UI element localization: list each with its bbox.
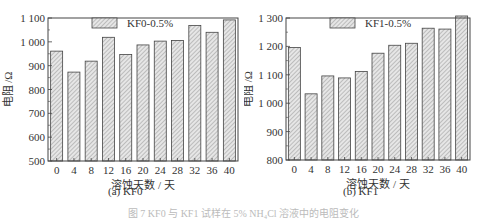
legend-label: KF1-0.5% — [365, 17, 411, 29]
bar — [339, 78, 351, 160]
x-tick-label: 16 — [356, 163, 368, 175]
bar — [137, 45, 149, 161]
bar — [120, 54, 132, 161]
bar — [206, 32, 218, 161]
x-tick-label: 4 — [71, 164, 77, 176]
bar — [456, 16, 468, 160]
x-tick-label: 20 — [373, 163, 385, 175]
subcaption-a: (a) KF0 — [108, 185, 143, 197]
y-tick-label: 1 300 — [258, 12, 283, 24]
y-tick-label: 1 200 — [258, 40, 283, 52]
y-tick-label: 700 — [29, 107, 46, 119]
x-tick-label: 36 — [439, 163, 451, 175]
y-tick-label: 900 — [267, 126, 284, 138]
x-tick-label: 20 — [138, 164, 150, 176]
legend-swatch — [330, 18, 355, 28]
y-tick-label: 500 — [29, 155, 46, 167]
bar — [102, 37, 114, 161]
legend-label: KF0-0.5% — [127, 17, 173, 29]
x-tick-label: 28 — [172, 164, 184, 176]
x-tick-label: 8 — [325, 163, 331, 175]
bars — [288, 16, 467, 160]
chart-panel-kf0: 04812162024283236405006007008009001 0001… — [0, 0, 243, 200]
y-tick-label: 1 100 — [20, 12, 45, 24]
bar-chart-kf1: 04812162024283236408009001 0001 1001 200… — [244, 0, 487, 200]
x-tick-label: 4 — [308, 163, 314, 175]
x-tick-label: 0 — [292, 163, 298, 175]
figure-caption: 图 7 KF0 与 KF1 试样在 5% NH₄Cl 溶液中的电阻变化 — [0, 205, 487, 219]
bar — [322, 76, 334, 160]
bar — [305, 94, 317, 160]
x-tick-label: 24 — [155, 164, 167, 176]
x-tick-label: 32 — [189, 164, 200, 176]
bar — [288, 48, 300, 160]
x-tick-label: 24 — [389, 163, 401, 175]
x-tick-label: 32 — [423, 163, 434, 175]
y-tick-label: 1 000 — [20, 36, 45, 48]
bar — [189, 25, 201, 161]
bar — [68, 72, 80, 161]
y-tick-label: 800 — [29, 84, 46, 96]
y-tick-label: 1 100 — [258, 69, 283, 81]
x-tick-label: 40 — [224, 164, 236, 176]
bar — [422, 28, 434, 160]
chart-panel-kf1: 04812162024283236408009001 0001 1001 200… — [244, 0, 487, 200]
legend-swatch — [92, 18, 117, 28]
x-tick-label: 40 — [456, 163, 468, 175]
bar — [85, 61, 97, 161]
y-axis-label: 电阻 /Ω — [2, 72, 14, 108]
bar — [439, 29, 451, 160]
y-tick-label: 900 — [29, 60, 46, 72]
bar — [154, 41, 166, 161]
y-tick-label: 800 — [267, 154, 284, 166]
bar — [172, 40, 184, 161]
bars — [51, 20, 236, 161]
subcaption-b: (b) KF1 — [343, 185, 378, 197]
y-axis-label: 电阻 /Ω — [244, 71, 254, 107]
bar — [51, 51, 63, 161]
x-tick-label: 8 — [88, 164, 94, 176]
x-tick-label: 16 — [120, 164, 132, 176]
bar — [389, 45, 401, 160]
y-tick-label: 1 000 — [258, 97, 283, 109]
bar — [372, 53, 384, 160]
y-tick-label: 600 — [29, 131, 46, 143]
bar — [355, 71, 367, 160]
x-tick-label: 12 — [339, 163, 350, 175]
x-tick-label: 12 — [103, 164, 114, 176]
x-tick-label: 28 — [406, 163, 418, 175]
x-tick-label: 36 — [207, 164, 219, 176]
x-tick-label: 0 — [54, 164, 60, 176]
bar — [405, 43, 417, 160]
bar — [223, 20, 235, 161]
bar-chart-kf0: 04812162024283236405006007008009001 0001… — [0, 0, 243, 200]
